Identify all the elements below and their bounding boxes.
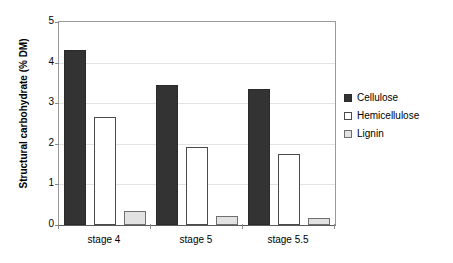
gridline	[59, 63, 335, 64]
legend-label: Hemicellulose	[357, 110, 419, 122]
legend-label: Cellulose	[357, 92, 398, 104]
plot-area	[58, 21, 336, 226]
legend-swatch-icon-cellulose	[344, 94, 352, 102]
bar-lignin-stage-4	[124, 211, 146, 225]
y-axis-tick-label: 4	[40, 57, 54, 67]
y-axis-tick-mark	[55, 103, 59, 104]
bar-hemicellulose-stage-5.5	[278, 154, 300, 225]
bar-hemicellulose-stage-4	[94, 117, 116, 225]
bar-chart-figure: Structural carbohydrate (% DM) 012345 st…	[0, 0, 453, 263]
legend-item-cellulose: Cellulose	[344, 89, 453, 107]
bar-cellulose-stage-5	[156, 85, 178, 225]
y-axis-title: Structural carbohydrate (% DM)	[16, 1, 32, 226]
x-axis-tick-mark	[150, 224, 151, 229]
legend-item-hemicellulose: Hemicellulose	[344, 107, 453, 125]
y-axis-tick-label: 1	[40, 178, 54, 188]
y-axis-tick-label: 5	[40, 16, 54, 26]
x-axis-tick-marks	[58, 224, 335, 230]
bar-cellulose-stage-4	[64, 50, 86, 225]
y-axis-tick-mark	[55, 184, 59, 185]
x-axis-tick-label: stage 5	[150, 233, 242, 247]
chart-legend: CelluloseHemicelluloseLignin	[344, 89, 453, 143]
legend-swatch-icon-hemicellulose	[344, 112, 352, 120]
x-axis-tick-labels: stage 4stage 5stage 5.5	[58, 233, 335, 249]
x-axis-tick-mark	[334, 224, 335, 229]
gridline	[59, 103, 335, 104]
legend-label: Lignin	[357, 128, 384, 140]
y-axis-tick-label: 0	[40, 219, 54, 229]
y-axis-tick-mark	[55, 63, 59, 64]
x-axis-tick-label: stage 4	[58, 233, 150, 247]
y-axis-tick-labels: 012345	[38, 21, 54, 224]
x-axis-tick-mark	[58, 224, 59, 229]
x-axis-tick-mark	[242, 224, 243, 229]
bar-cellulose-stage-5.5	[248, 89, 270, 225]
x-axis-tick-label: stage 5.5	[242, 233, 334, 247]
y-axis-tick-label: 2	[40, 138, 54, 148]
bar-hemicellulose-stage-5	[186, 147, 208, 225]
legend-item-lignin: Lignin	[344, 125, 453, 143]
y-axis-tick-mark	[55, 144, 59, 145]
legend-swatch-icon-lignin	[344, 130, 352, 138]
y-axis-tick-mark	[55, 22, 59, 23]
y-axis-tick-label: 3	[40, 97, 54, 107]
